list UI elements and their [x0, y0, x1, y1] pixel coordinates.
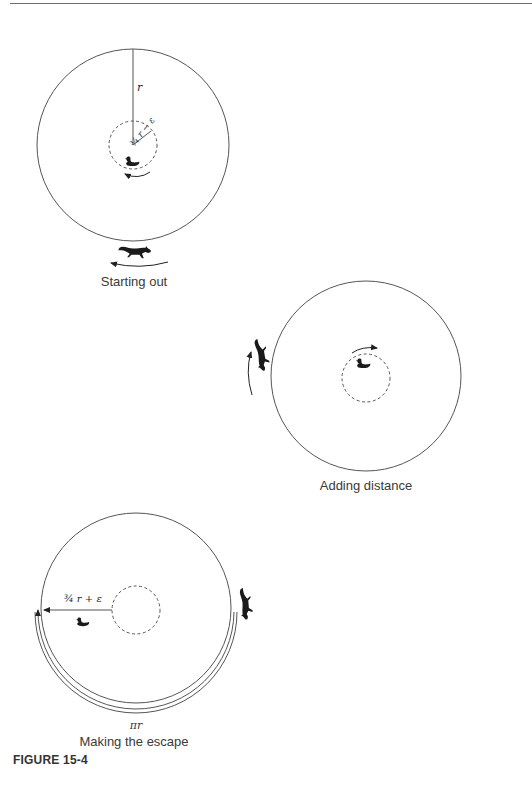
caption-starting-out: Starting out [101, 274, 168, 289]
panel-starting-out [37, 49, 229, 266]
duck-fox-diagram [0, 0, 532, 802]
panel-making-the-escape [35, 513, 253, 713]
caption-adding-distance: Adding distance [320, 478, 413, 493]
escape-path-label: ¾ r + ε [64, 593, 102, 604]
caption-making-the-escape: Making the escape [79, 734, 188, 749]
radius-label: r [137, 81, 142, 94]
arc-length-label: πr [130, 719, 143, 732]
figure-label: FIGURE 15-4 [13, 753, 88, 767]
panel-adding-distance [248, 281, 461, 471]
